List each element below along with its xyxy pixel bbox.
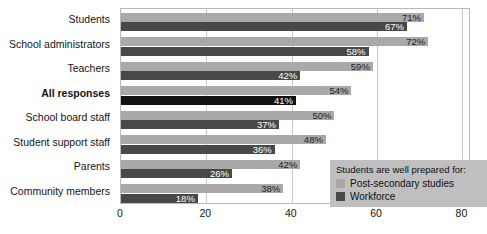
bar-group: 72%58% [121,34,469,59]
bar-value-label: 54% [329,86,348,95]
x-tick-label: 40 [285,207,297,219]
bar-workforce: 42% [121,71,300,80]
bar-workforce: 67% [121,22,407,31]
x-axis: 020406080 [120,204,470,224]
bar-value-label: 38% [261,184,280,193]
category-label: Community members [0,186,110,197]
category-label: Student support staff [0,137,110,148]
category-label: Parents [0,161,110,172]
bar-post-secondary: 54% [121,86,351,95]
bar-value-label: 59% [351,62,370,71]
bar-value-label: 36% [253,145,272,154]
bar-value-label: 58% [347,47,366,56]
legend: Students are well prepared for: Post-sec… [330,160,487,207]
bar-value-label: 26% [210,169,229,178]
category-label: Students [0,14,110,25]
category-label: Teachers [0,63,110,74]
bar-workforce: 37% [121,120,279,129]
legend-item: Workforce [336,191,482,202]
bar-post-secondary: 50% [121,111,334,120]
bar-post-secondary: 72% [121,37,428,46]
legend-item: Post-secondary studies [336,178,482,189]
x-tick-label: 20 [200,207,212,219]
legend-label: Workforce [350,191,395,202]
bar-post-secondary: 48% [121,135,326,144]
bar-group: 59%42% [121,58,469,83]
bar-value-label: 67% [385,22,404,31]
bar-workforce: 41% [121,96,296,105]
legend-items: Post-secondary studiesWorkforce [336,178,482,202]
bar-value-label: 50% [312,111,331,120]
bar-workforce: 26% [121,169,232,178]
bar-value-label: 41% [274,96,293,105]
bar-value-label: 37% [257,120,276,129]
category-axis-labels: StudentsSchool administratorsTeachersAll… [0,8,116,204]
bar-workforce: 18% [121,194,198,203]
x-tick-label: 80 [456,207,468,219]
legend-title: Students are well prepared for: [336,164,482,175]
bar-post-secondary: 59% [121,62,373,71]
bar-workforce: 36% [121,145,275,154]
bar-group: 54%41% [121,83,469,108]
bar-workforce: 58% [121,47,369,56]
legend-swatch-work [336,192,345,201]
legend-label: Post-secondary studies [350,178,454,189]
bar-value-label: 71% [402,13,421,22]
bar-value-label: 18% [176,194,195,203]
bar-value-label: 72% [406,37,425,46]
bar-value-label: 48% [304,135,323,144]
bar-value-label: 42% [278,71,297,80]
category-label: All responses [0,88,110,99]
bar-group: 50%37% [121,107,469,132]
category-label: School administrators [0,39,110,50]
category-label: School board staff [0,112,110,123]
bar-post-secondary: 71% [121,13,424,22]
legend-swatch-post [336,179,345,188]
bar-post-secondary: 38% [121,184,283,193]
bar-chart: StudentsSchool administratorsTeachersAll… [0,0,487,234]
bar-group: 48%36% [121,132,469,157]
x-tick-label: 60 [370,207,382,219]
bar-value-label: 42% [278,160,297,169]
x-tick-label: 0 [117,207,123,219]
bar-group: 71%67% [121,9,469,34]
